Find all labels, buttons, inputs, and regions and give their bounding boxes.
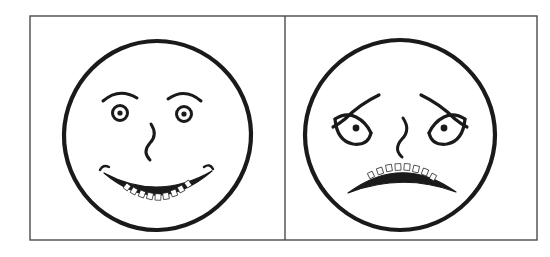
tooth [155,194,161,201]
tooth [163,192,170,199]
face-pair-illustration: Two hand-drawn faces Line drawing of a h… [0,0,550,257]
face-pair-canvas [0,0,550,257]
tooth [386,164,393,172]
happy-right-eye-pupil [181,111,186,116]
sad-left-eye-pupil [353,125,360,132]
sad-right-eye-pupil [441,125,448,132]
tooth [412,165,419,173]
tooth [395,164,401,171]
happy-left-eye-pupil [117,110,122,115]
tooth [404,163,410,170]
tooth [146,192,153,200]
